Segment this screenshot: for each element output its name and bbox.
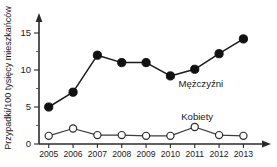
chart-background: [0, 0, 277, 167]
data-point-kobiety-2013: [240, 132, 247, 139]
data-point-mezczyzni-2008: [118, 59, 126, 67]
x-tick-label-2005: 2005: [39, 149, 58, 159]
x-tick-label-2012: 2012: [210, 149, 229, 159]
data-point-kobiety-2010: [167, 132, 174, 139]
line-chart: Przypadki/100 tysięcy mieszkańców 0 5 10…: [0, 0, 277, 167]
data-point-kobiety-2012: [215, 132, 222, 139]
x-tick-label-2011: 2011: [185, 149, 204, 159]
y-tick-label-5: 5: [26, 101, 31, 112]
data-point-mezczyzni-2011: [191, 65, 199, 73]
x-axis-tick-labels: 200520062007200820092010201120122013: [39, 149, 253, 159]
data-point-kobiety-2005: [45, 132, 52, 139]
data-point-kobiety-2011: [191, 123, 198, 130]
x-tick-label-2013: 2013: [234, 149, 253, 159]
x-tick-label-2009: 2009: [137, 149, 156, 159]
y-axis-title: Przypadki/100 tysięcy mieszkańców: [3, 6, 13, 150]
data-point-mezczyzni-2006: [69, 88, 77, 96]
data-point-kobiety-2006: [69, 125, 76, 132]
data-point-mezczyzni-2007: [93, 51, 101, 59]
data-point-mezczyzni-2012: [215, 50, 223, 58]
x-tick-label-2008: 2008: [112, 149, 131, 159]
y-tick-label-15: 15: [20, 27, 31, 38]
x-tick-label-2007: 2007: [88, 149, 107, 159]
data-point-mezczyzni-2013: [239, 35, 247, 43]
data-point-kobiety-2009: [142, 132, 149, 139]
data-point-kobiety-2007: [94, 132, 101, 139]
data-point-mezczyzni-2005: [45, 103, 53, 111]
chart-container: Przypadki/100 tysięcy mieszkańców 0 5 10…: [0, 0, 277, 167]
y-tick-label-10: 10: [20, 64, 31, 75]
x-tick-label-2006: 2006: [64, 149, 83, 159]
y-axis-title-group: Przypadki/100 tysięcy mieszkańców: [3, 6, 13, 150]
data-point-mezczyzni-2010: [166, 72, 174, 80]
y-tick-label-0: 0: [26, 138, 31, 149]
data-point-kobiety-2008: [118, 132, 125, 139]
series-label-kobiety: Kobiety: [181, 111, 213, 122]
series-label-mezczyzni: Mężczyźni: [178, 78, 223, 89]
x-tick-label-2010: 2010: [161, 149, 180, 159]
data-point-mezczyzni-2009: [142, 59, 150, 67]
